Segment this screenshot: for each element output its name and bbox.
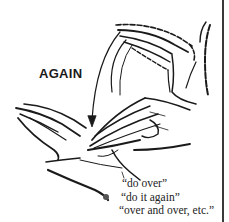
upper-hand-icon — [116, 22, 210, 104]
motion-arc-icon — [88, 32, 132, 127]
right-hand-icon — [88, 98, 190, 150]
page-border-divider — [222, 0, 224, 222]
bullet-dot-icon — [103, 194, 109, 200]
sign-card: AGAIN “do over” “do it again” “over and … — [0, 0, 229, 222]
sign-title: AGAIN — [39, 66, 82, 81]
meaning-item: “over and over, etc.” — [119, 204, 214, 218]
meaning-item: “do it again” — [121, 191, 214, 205]
meanings-list: “do over” “do it again” “over and over, … — [121, 177, 214, 218]
meaning-item: “do over” — [122, 177, 214, 191]
